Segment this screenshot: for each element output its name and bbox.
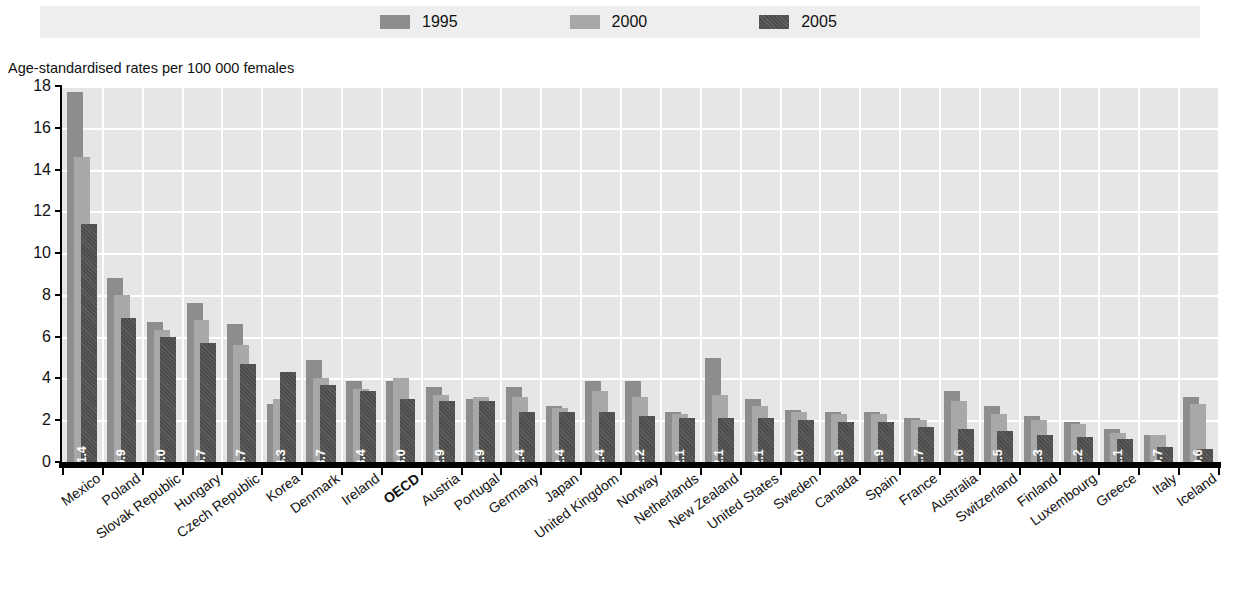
legend-2000: 2000 (570, 13, 648, 31)
bar-value-label: 11.4 (75, 447, 89, 462)
bar-value-label: 3.0 (394, 450, 408, 462)
legend-label-1995: 1995 (422, 13, 458, 31)
bar-2005: 3.0 (400, 399, 416, 462)
bar-2005: 2.1 (758, 418, 774, 462)
bar-group: 2.4 (580, 86, 620, 462)
x-axis-tick (1218, 468, 1220, 475)
x-axis-line (59, 462, 1221, 468)
bar-2005: 2.1 (679, 418, 695, 462)
bar-value-label: 2.1 (712, 450, 726, 462)
y-axis-tick-label: 12 (33, 202, 51, 220)
y-axis-tick (55, 294, 62, 296)
bar-2005: 2.9 (439, 401, 455, 462)
bar-2005: 6.0 (160, 337, 176, 462)
bar-group: 0.6 (1178, 86, 1218, 462)
bar-group: 5.7 (182, 86, 222, 462)
category-label-canada: Canada (812, 470, 861, 512)
bar-group: 2.1 (740, 86, 780, 462)
bar-group: 4.7 (221, 86, 261, 462)
category-axis-labels: MexicoPolandSlovak RepublicHungaryCzech … (62, 470, 1218, 595)
bar-value-label: 2.4 (513, 450, 527, 462)
bar-2005: 2.4 (599, 412, 615, 462)
legend-1995: 1995 (380, 13, 458, 31)
y-axis-tick (55, 336, 62, 338)
bar-2005: 0.6 (1197, 449, 1213, 462)
bar-group: 6.0 (142, 86, 182, 462)
category-label-ireland: Ireland (338, 470, 382, 508)
bar-value-label: 2.1 (673, 450, 687, 462)
bar-value-label: 1.6 (952, 450, 966, 462)
bar-2005: 2.4 (559, 412, 575, 462)
bar-group: 1.5 (979, 86, 1019, 462)
bar-2005: 4.7 (240, 364, 256, 462)
bar-group: 2.1 (660, 86, 700, 462)
plot-area: 11.46.96.05.74.74.33.73.43.02.92.92.42.4… (62, 86, 1218, 462)
y-axis-tick-label: 2 (42, 411, 51, 429)
chart-legend: 199520002005 (380, 6, 837, 38)
bar-2005: 4.3 (280, 372, 296, 462)
bar-group: 4.3 (261, 86, 301, 462)
bar-value-label: 2.9 (473, 450, 487, 462)
y-axis-tick (55, 169, 62, 171)
bar-group: 2.4 (540, 86, 580, 462)
legend-swatch-2000 (570, 15, 600, 29)
bar-group: 1.6 (939, 86, 979, 462)
y-axis-tick-label: 6 (42, 328, 51, 346)
category-label-oecd: OECD (380, 470, 422, 507)
bar-value-label: 2.0 (792, 450, 806, 462)
bar-group: 11.4 (62, 86, 102, 462)
bar-2005: 1.3 (1037, 435, 1053, 462)
bar-2005: 1.2 (1077, 437, 1093, 462)
bar-group: 6.9 (102, 86, 142, 462)
y-axis-tick-label: 10 (33, 244, 51, 262)
bar-2005: 0.7 (1157, 447, 1173, 462)
y-axis-tick-label: 8 (42, 286, 51, 304)
bar-group: 1.3 (1019, 86, 1059, 462)
y-axis-tick (55, 377, 62, 379)
bar-2005: 2.2 (639, 416, 655, 462)
bar-2005: 1.7 (918, 427, 934, 463)
bar-group: 3.4 (341, 86, 381, 462)
y-axis-tick (55, 419, 62, 421)
bar-2005: 1.6 (958, 429, 974, 462)
legend-2005: 2005 (759, 13, 837, 31)
bar-value-label: 6.9 (114, 450, 128, 462)
legend-label-2000: 2000 (612, 13, 648, 31)
bar-2005: 3.7 (320, 385, 336, 462)
bar-value-label: 0.7 (1151, 450, 1165, 462)
bar-2005: 2.9 (479, 401, 495, 462)
bar-group: 2.4 (500, 86, 540, 462)
bar-group: 3.7 (301, 86, 341, 462)
y-axis-tick (55, 127, 62, 129)
bar-2005: 1.1 (1117, 439, 1133, 462)
bar-value-label: 4.7 (234, 450, 248, 462)
bar-group: 1.7 (899, 86, 939, 462)
bar-group: 2.9 (421, 86, 461, 462)
bar-value-label: 1.9 (832, 450, 846, 462)
category-label-spain: Spain (862, 470, 900, 504)
y-axis-tick (55, 85, 62, 87)
category-label-iceland: Iceland (1174, 470, 1220, 509)
y-axis-tick (55, 210, 62, 212)
legend-swatch-2005 (759, 15, 789, 29)
bar-2005: 2.0 (798, 420, 814, 462)
bar-2005: 1.9 (878, 422, 894, 462)
bar-value-label: 2.4 (553, 450, 567, 462)
y-axis-tick-label: 0 (42, 453, 51, 471)
y-axis-tick-label: 18 (33, 77, 51, 95)
chart-page: 199520002005 Age-standardised rates per … (0, 0, 1243, 602)
y-axis-tick-label: 14 (33, 161, 51, 179)
category-label-sweden: Sweden (771, 470, 821, 513)
bar-group: 1.9 (819, 86, 859, 462)
bar-group: 2.2 (620, 86, 660, 462)
bar-group: 1.2 (1059, 86, 1099, 462)
bar-2005: 1.9 (838, 422, 854, 462)
bar-value-label: 1.5 (991, 450, 1005, 462)
bar-value-label: 2.1 (752, 450, 766, 462)
bar-group: 2.9 (461, 86, 501, 462)
bar-2005: 11.4 (81, 224, 97, 462)
bar-value-label: 4.3 (274, 450, 288, 462)
y-axis-tick (55, 461, 62, 463)
legend-swatch-1995 (380, 15, 410, 29)
bar-group: 1.1 (1098, 86, 1138, 462)
